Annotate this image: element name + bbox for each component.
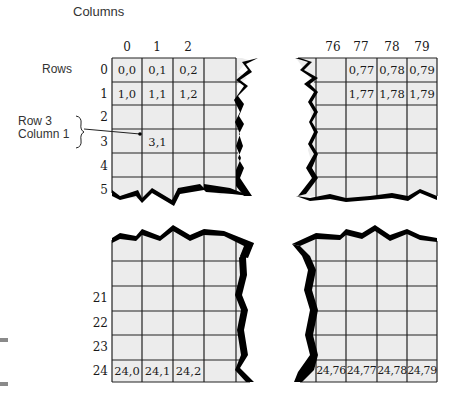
row-header: 1 <box>84 87 108 101</box>
array-cell: 24,79 <box>407 364 437 377</box>
row-header: 24 <box>84 364 108 378</box>
column-header: 79 <box>407 40 437 54</box>
array-cell: 1,79 <box>407 87 437 101</box>
grid-block-bottom-right <box>292 225 437 382</box>
column-header: 76 <box>318 40 348 54</box>
column-header: 2 <box>173 40 203 54</box>
array-cell: 0,78 <box>377 63 407 77</box>
array-cell: 1,78 <box>377 87 407 101</box>
array-cell: 24,2 <box>173 364 204 378</box>
row-header: 21 <box>84 291 108 305</box>
array-cell: 0,1 <box>142 63 173 77</box>
array-cell: 24,76 <box>316 364 346 377</box>
grid-block-top-right <box>295 58 437 202</box>
array-cell: 1,77 <box>346 87 377 101</box>
column-header: 0 <box>112 40 142 54</box>
column-header: 78 <box>377 40 407 54</box>
grid-block-top-left <box>112 58 258 206</box>
array-cell: 0,2 <box>173 63 204 77</box>
row-header: 23 <box>84 340 108 354</box>
columns-title: Columns <box>73 4 124 19</box>
row-header: 22 <box>84 316 108 330</box>
edge-mark <box>0 338 8 342</box>
array-cell: 24,78 <box>377 364 407 377</box>
array-grid-graphic <box>0 0 450 400</box>
array-cell: 1,0 <box>112 87 142 101</box>
grid-block-bottom-left <box>112 225 254 382</box>
array-cell: 24,1 <box>142 364 173 378</box>
edge-mark <box>0 382 8 386</box>
row-header: 0 <box>84 63 108 77</box>
annotation-line-2: Column 1 <box>18 128 69 141</box>
annotation-label: Row 3 Column 1 <box>18 115 69 141</box>
row-header: 2 <box>84 110 108 124</box>
row-header: 4 <box>84 159 108 173</box>
column-header: 1 <box>142 40 172 54</box>
array-cell: 0,77 <box>346 63 377 77</box>
row-header: 3 <box>84 135 108 149</box>
rows-label: Rows <box>42 62 72 76</box>
array-cell: 1,1 <box>142 87 173 101</box>
array-cell-highlighted: 3,1 <box>142 135 173 149</box>
array-cell: 0,0 <box>112 63 142 77</box>
array-cell: 0,79 <box>407 63 437 77</box>
array-cell: 1,2 <box>173 87 204 101</box>
row-header: 5 <box>84 183 108 197</box>
array-cell: 24,0 <box>112 364 142 378</box>
column-header: 77 <box>346 40 376 54</box>
array-cell: 24,77 <box>346 364 377 377</box>
